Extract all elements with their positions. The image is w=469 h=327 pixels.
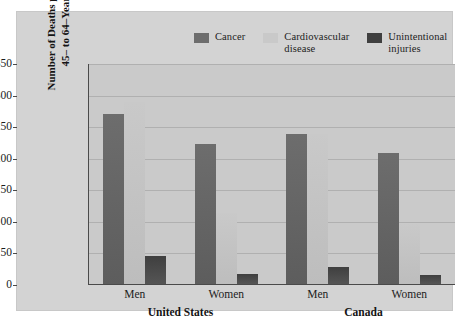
plot-area	[88, 64, 455, 285]
y-tick-mark-100	[13, 222, 17, 223]
y-tick-mark-200	[13, 159, 17, 160]
y-tick-mark-250	[13, 127, 17, 128]
x-tick-label-3: Women	[369, 288, 449, 300]
legend-label-cardiovascular-disease: Cardiovascular disease	[284, 31, 349, 54]
y-tick-label-250: 250	[0, 120, 12, 132]
bar-cancer-1[interactable]	[195, 144, 216, 284]
bar-cancer-2[interactable]	[286, 134, 307, 284]
y-tick-mark-50	[13, 253, 17, 254]
x-group-label-0: United States	[111, 306, 251, 318]
x-group-label-1: Canada	[294, 306, 434, 318]
y-axis-title: Number of Deaths per 100,000 45– to 64–Y…	[44, 0, 72, 119]
legend-swatch-cardiovascular-disease	[263, 33, 278, 43]
bar-injury-2[interactable]	[328, 267, 349, 284]
legend-swatch-unintentional-injuries	[367, 33, 382, 43]
bar-injury-0[interactable]	[145, 256, 166, 284]
chart-page: Cancer Cardiovascular disease Unintentio…	[0, 0, 469, 327]
bar-groups	[89, 64, 455, 284]
legend-item-unintentional-injuries: Unintentional injuries	[367, 31, 447, 54]
x-tick-label-1: Women	[186, 288, 266, 300]
legend-label-cancer: Cancer	[215, 31, 245, 43]
y-tick-mark-350	[13, 64, 17, 65]
y-tick-label-350: 350	[0, 57, 12, 69]
y-tick-label-150: 150	[0, 183, 12, 195]
y-axis-title-holder: Number of Deaths per 100,000 45– to 64–Y…	[50, 59, 70, 289]
bar-cardio-2[interactable]	[307, 134, 328, 284]
bar-group-3	[378, 64, 441, 284]
bar-cancer-0[interactable]	[103, 114, 124, 284]
plot-wrapper: 050100150200250300350 MenWomenMenWomen U…	[88, 64, 455, 285]
legend-swatch-cancer	[194, 33, 209, 43]
y-tick-mark-300	[13, 96, 17, 97]
bar-injury-1[interactable]	[237, 274, 258, 284]
bar-group-2	[286, 64, 349, 284]
y-tick-mark-150	[13, 190, 17, 191]
bar-group-0	[103, 64, 166, 284]
chart-legend: Cancer Cardiovascular disease Unintentio…	[194, 31, 469, 61]
legend-item-cancer: Cancer	[194, 31, 245, 43]
y-tick-mark-0	[13, 285, 17, 286]
bar-cancer-3[interactable]	[378, 153, 399, 284]
y-tick-label-100: 100	[0, 215, 12, 227]
legend-label-unintentional-injuries: Unintentional injuries	[388, 31, 447, 54]
y-tick-label-200: 200	[0, 152, 12, 164]
legend-item-cardiovascular-disease: Cardiovascular disease	[263, 31, 349, 54]
bar-group-1	[195, 64, 258, 284]
bar-cardio-1[interactable]	[216, 213, 237, 284]
y-tick-label-300: 300	[0, 89, 12, 101]
x-tick-label-0: Men	[95, 288, 175, 300]
chart-panel: Cancer Cardiovascular disease Unintentio…	[16, 11, 453, 311]
y-tick-label-50: 50	[0, 246, 12, 258]
x-tick-label-2: Men	[278, 288, 358, 300]
y-tick-label-0: 0	[0, 278, 12, 290]
bar-injury-3[interactable]	[420, 275, 441, 284]
bar-cardio-3[interactable]	[399, 224, 420, 284]
bar-cardio-0[interactable]	[124, 102, 145, 284]
